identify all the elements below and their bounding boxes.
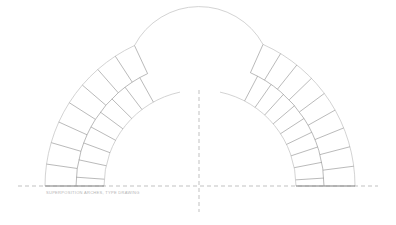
voussoir-joint-inner [76,177,104,179]
voussoir-joint-outer [264,54,280,80]
voussoir-joint-inner [140,78,154,102]
voussoir-joint-outer [98,69,118,92]
voussoir-joint-outer [250,44,263,72]
voussoir-joint-outer [59,122,87,135]
voussoir-joint-inner [296,178,324,180]
voussoir-joint-inner [255,84,271,107]
drawing-caption: SUPERPOSITION ARCHES, TYPE DRAWING [46,190,140,195]
voussoir-joint-inner [287,132,312,144]
voussoir-joint-outer [299,93,324,112]
voussoir-joint-outer [289,78,311,100]
voussoir-joint-outer [134,46,147,74]
crown-arc [135,7,264,46]
voussoir-joint-inner [84,143,110,153]
inner-ring-arc [220,92,296,186]
voussoir-joint-outer [277,65,296,89]
middle-ring-arc [76,74,148,186]
voussoir-joint-inner [91,127,116,140]
voussoir-joint-outer [115,56,132,82]
voussoir-joint-outer [308,110,335,125]
right-arch [220,44,355,186]
voussoir-joint-inner [79,160,106,166]
voussoir-joint-inner [125,87,142,109]
voussoir-joint-inner [291,147,318,156]
voussoir-joint-outer [47,164,78,168]
voussoir-joint-inner [294,162,321,167]
voussoir-joint-inner [265,94,284,115]
voussoir-joint-outer [82,85,106,105]
voussoir-joint-outer [315,128,344,140]
voussoir-joint-inner [100,112,122,129]
voussoir-joint-inner [281,118,304,133]
voussoir-joint-outer [51,143,81,152]
inner-ring-arc [104,92,180,186]
voussoir-joint-outer [69,103,95,120]
voussoir-joint-inner [112,99,132,119]
voussoir-joint-outer [320,147,350,155]
crown-arc-path [135,7,264,46]
left-arch [45,46,180,187]
voussoir-joint-inner [273,106,294,124]
voussoir-joint-outer [323,166,354,170]
voussoir-joint-inner [245,76,258,101]
